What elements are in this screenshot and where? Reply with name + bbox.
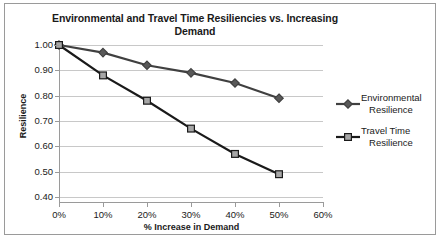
y-axis-tick: [55, 45, 59, 46]
data-series-layer: [59, 45, 323, 197]
chart-container: Environmental and Travel Time Resilienci…: [4, 3, 436, 235]
series-line-0: [59, 45, 279, 98]
x-axis-tick: [235, 203, 236, 207]
data-point: [144, 97, 151, 104]
y-axis-tick: [55, 172, 59, 173]
diamond-marker-icon: [335, 95, 361, 103]
y-axis-tick: [55, 96, 59, 97]
data-point: [187, 69, 195, 77]
legend-entry-1[interactable]: Travel TimeResilience: [335, 125, 435, 149]
y-axis-tick-label: 1.00: [19, 39, 53, 50]
y-axis-tick-label: 0.40: [19, 191, 53, 202]
y-axis-tick-label: 0.50: [19, 166, 53, 177]
data-point: [99, 48, 107, 56]
x-axis-tick-label: 40%: [215, 209, 255, 220]
x-axis-tick-label: 50%: [259, 209, 299, 220]
x-axis-title: % Increase in Demand: [59, 222, 324, 232]
y-axis-tick: [55, 146, 59, 147]
data-point: [232, 151, 239, 158]
x-axis-tick: [147, 203, 148, 207]
data-point: [276, 171, 283, 178]
x-axis-tick-label: 0%: [39, 209, 79, 220]
data-point: [100, 72, 107, 79]
legend-entry-0[interactable]: EnvironmentalResilience: [335, 92, 435, 116]
x-axis-tick: [323, 203, 324, 207]
x-axis-tick-label: 10%: [83, 209, 123, 220]
data-point: [231, 79, 239, 87]
x-axis-tick: [191, 203, 192, 207]
x-axis-tick: [103, 203, 104, 207]
y-axis-tick: [55, 70, 59, 71]
chart-legend: EnvironmentalResilienceTravel TimeResili…: [335, 92, 435, 158]
data-point: [143, 61, 151, 69]
x-axis-tick-label: 30%: [171, 209, 211, 220]
y-axis-tick: [55, 121, 59, 122]
x-axis-tick-label: 60%: [303, 209, 343, 220]
x-axis-tick: [279, 203, 280, 207]
y-axis-title: Resilience: [18, 76, 28, 156]
series-line-1: [59, 45, 279, 174]
y-axis-tick-label: 0.90: [19, 64, 53, 75]
x-axis-tick-label: 20%: [127, 209, 167, 220]
y-axis-tick: [55, 197, 59, 198]
data-point: [275, 94, 283, 102]
data-point: [188, 125, 195, 132]
x-axis-tick: [59, 203, 60, 207]
chart-title: Environmental and Travel Time Resilienci…: [45, 12, 345, 38]
gridline: [59, 197, 323, 198]
square-marker-icon: [335, 128, 361, 136]
